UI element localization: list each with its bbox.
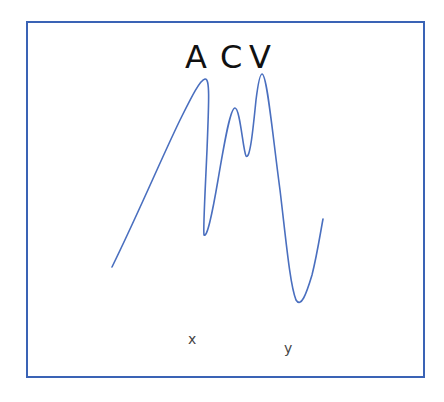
x-axis-label: x <box>188 331 196 347</box>
curve-line <box>112 74 323 302</box>
y-axis-label: y <box>284 340 292 356</box>
chart-curve <box>0 0 444 402</box>
